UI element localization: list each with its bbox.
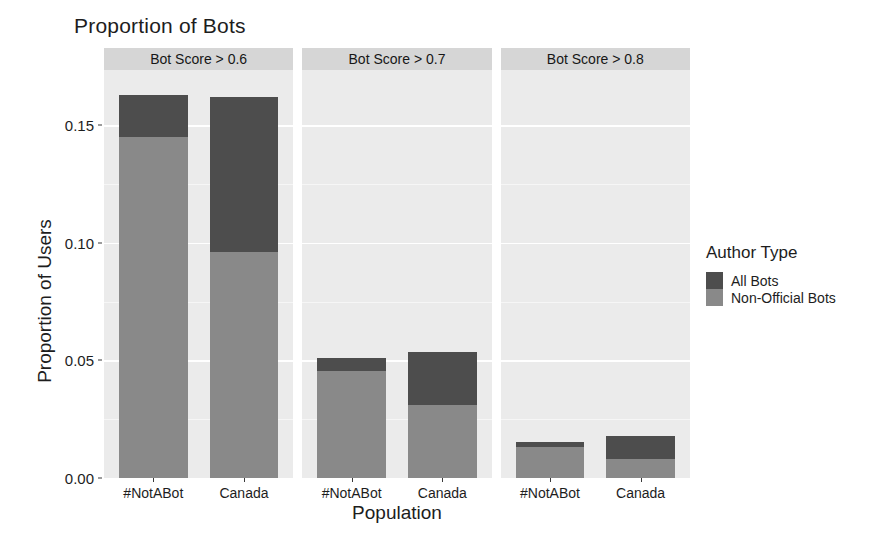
bar-segment-non-official-bots[interactable] <box>516 447 585 479</box>
facet-panel: Bot Score > 0.7 <box>302 48 491 478</box>
x-tick-label: #NotABot <box>516 478 585 504</box>
bar-series <box>501 70 690 478</box>
y-tick-label: 0.05 <box>40 352 94 369</box>
y-tick-label: 0.15 <box>40 117 94 134</box>
y-tick-mark <box>98 242 102 243</box>
legend-title: Author Type <box>706 243 871 263</box>
facet-strip-label: Bot Score > 0.8 <box>501 48 690 70</box>
legend: Author Type All BotsNon-Official Bots <box>706 243 871 306</box>
panel-plot-area <box>302 70 491 478</box>
x-axis-title: Population <box>104 502 690 524</box>
stacked-bar[interactable] <box>516 442 585 478</box>
x-tick-label: Canada <box>210 478 279 504</box>
y-axis-title: Proportion of Users <box>34 111 56 491</box>
bar-segment-non-official-bots[interactable] <box>317 371 386 478</box>
x-tick-group: #NotABotCanada <box>302 478 491 504</box>
stacked-bar[interactable] <box>119 95 188 478</box>
x-tick-label: #NotABot <box>317 478 386 504</box>
legend-item-label: Non-Official Bots <box>731 290 836 306</box>
bar-segment-non-official-bots[interactable] <box>408 405 477 478</box>
facet-panel: Bot Score > 0.6 <box>104 48 293 478</box>
facet-strip-label: Bot Score > 0.7 <box>302 48 491 70</box>
x-axis-ticks: #NotABotCanada#NotABotCanada#NotABotCana… <box>104 478 690 504</box>
stacked-bar[interactable] <box>408 352 477 478</box>
facet-panels: Bot Score > 0.6Bot Score > 0.7Bot Score … <box>104 48 690 478</box>
chart-title: Proportion of Bots <box>74 14 246 38</box>
x-tick-label: #NotABot <box>119 478 188 504</box>
x-tick-group: #NotABotCanada <box>501 478 690 504</box>
stacked-bar[interactable] <box>606 436 675 478</box>
facet-strip-label: Bot Score > 0.6 <box>104 48 293 70</box>
legend-swatch-icon <box>706 289 723 306</box>
stacked-bar[interactable] <box>317 358 386 478</box>
legend-swatch-icon <box>706 272 723 289</box>
x-tick-label: Canada <box>606 478 675 504</box>
bar-segment-all-bots[interactable] <box>210 97 279 252</box>
x-tick-label: Canada <box>408 478 477 504</box>
legend-item[interactable]: All Bots <box>706 272 871 289</box>
bar-segment-all-bots[interactable] <box>606 436 675 459</box>
legend-item-label: All Bots <box>731 273 778 289</box>
y-tick-label: 0.10 <box>40 234 94 251</box>
y-tick-mark <box>98 125 102 126</box>
bar-segment-all-bots[interactable] <box>119 95 188 137</box>
bar-segment-non-official-bots[interactable] <box>119 137 188 478</box>
x-tick-group: #NotABotCanada <box>104 478 293 504</box>
y-tick-mark <box>98 478 102 479</box>
bar-segment-non-official-bots[interactable] <box>210 252 279 478</box>
bar-series <box>104 70 293 478</box>
bot-proportion-chart: Proportion of Bots Proportion of Users 0… <box>0 0 876 539</box>
stacked-bar[interactable] <box>210 97 279 478</box>
bar-segment-all-bots[interactable] <box>408 352 477 404</box>
legend-item[interactable]: Non-Official Bots <box>706 289 871 306</box>
bar-segment-all-bots[interactable] <box>317 358 386 371</box>
bar-series <box>302 70 491 478</box>
panel-plot-area <box>104 70 293 478</box>
facet-panel: Bot Score > 0.8 <box>501 48 690 478</box>
panel-plot-area <box>501 70 690 478</box>
legend-items: All BotsNon-Official Bots <box>706 272 871 306</box>
y-tick-mark <box>98 360 102 361</box>
y-tick-label: 0.00 <box>40 470 94 487</box>
bar-segment-non-official-bots[interactable] <box>606 459 675 478</box>
